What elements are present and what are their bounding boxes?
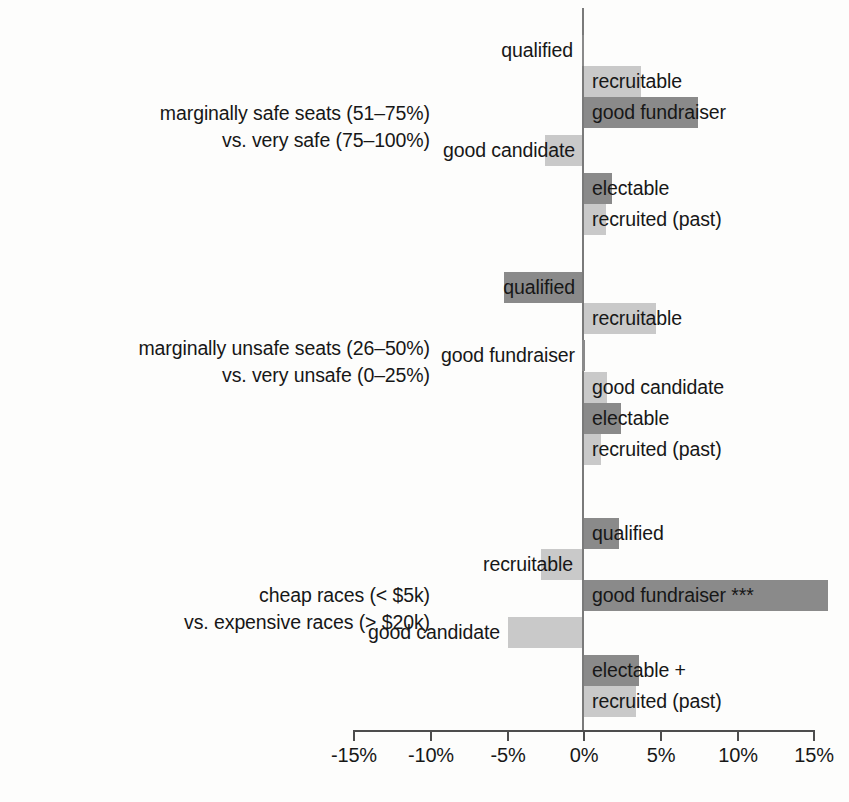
x-tick-0 <box>583 730 585 741</box>
bar-label-g0-recruitable: recruitable <box>592 66 682 97</box>
group-caption-line1: cheap races (< $5k) <box>30 582 430 609</box>
bar-label-g0-good-candidate: good candidate <box>300 135 575 166</box>
x-tick-label-15: 15% <box>794 744 833 767</box>
bar-g2-good-candidate <box>508 617 582 648</box>
chart-figure: marginally safe seats (51–75%) vs. very … <box>0 0 849 802</box>
x-tick-label--5: -5% <box>491 744 526 767</box>
bar-label-g0-good-fundraiser: good fundraiser <box>592 97 726 128</box>
bar-label-g2-recruited-past: recruited (past) <box>592 686 722 717</box>
group-caption-line1: marginally safe seats (51–75%) <box>30 100 430 127</box>
bar-label-g2-good-candidate: good candidate <box>255 617 500 648</box>
bar-g1-good-fundraiser <box>582 340 585 371</box>
x-tick-15 <box>813 730 815 741</box>
bar-label-g1-good-fundraiser: good fundraiser <box>330 340 575 371</box>
x-tick-label-10: 10% <box>718 744 757 767</box>
plot-area: marginally safe seats (51–75%) vs. very … <box>0 0 849 730</box>
x-tick-5 <box>660 730 662 741</box>
x-tick-label--15: -15% <box>331 744 377 767</box>
bar-label-g1-qualified: qualified <box>320 272 575 303</box>
bar-label-g1-recruitable: recruitable <box>592 303 682 334</box>
bar-label-g2-qualified: qualified <box>592 518 664 549</box>
bar-label-g2-electable: electable + <box>592 655 686 686</box>
bar-label-g2-good-fundraiser: good fundraiser *** <box>592 580 754 611</box>
bar-label-g1-electable: electable <box>592 403 669 434</box>
bar-label-g2-recruitable: recruitable <box>330 549 573 580</box>
bar-label-g0-recruited-past: recruited (past) <box>592 204 722 235</box>
x-tick--10 <box>430 730 432 741</box>
bar-label-g0-qualified: qualified <box>383 35 573 66</box>
bar-label-g1-recruited-past: recruited (past) <box>592 434 722 465</box>
x-tick-label--10: -10% <box>408 744 454 767</box>
x-tick-10 <box>737 730 739 741</box>
x-axis: -15% -10% -5% 0% 5% 10% 15% <box>0 730 849 802</box>
bar-label-g0-electable: electable <box>592 173 669 204</box>
bar-label-g1-good-candidate: good candidate <box>592 372 724 403</box>
x-tick--15 <box>353 730 355 741</box>
x-tick-label-5: 5% <box>647 744 676 767</box>
x-tick-label-0: 0% <box>570 744 599 767</box>
bar-g0-qualified <box>582 35 584 66</box>
x-tick--5 <box>507 730 509 741</box>
